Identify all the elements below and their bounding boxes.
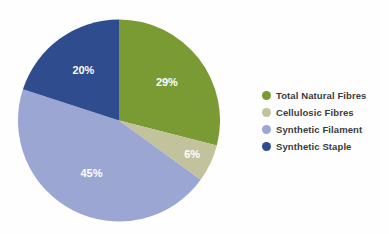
pie-slice-label: 20% — [72, 64, 94, 76]
circle-swatch-icon — [262, 91, 271, 100]
pie-chart-figure: 29%6%45%20% Total Natural FibresCellulos… — [0, 0, 389, 234]
circle-swatch-icon — [262, 125, 271, 134]
legend-item-label: Synthetic Filament — [276, 125, 362, 135]
legend-item-label: Total Natural Fibres — [276, 91, 367, 101]
pie-slice-label: 29% — [156, 76, 178, 88]
circle-swatch-icon — [262, 142, 271, 151]
legend-item[interactable]: Synthetic Filament — [262, 121, 388, 138]
legend-item-label: Cellulosic Fibres — [276, 108, 354, 118]
chart-legend: Total Natural FibresCellulosic FibresSyn… — [262, 87, 388, 155]
pie-slice-label: 45% — [80, 167, 102, 179]
legend-item[interactable]: Cellulosic Fibres — [262, 104, 388, 121]
legend-item[interactable]: Total Natural Fibres — [262, 87, 388, 104]
pie-slice-label: 6% — [184, 148, 200, 160]
pie-slice-group — [18, 19, 220, 221]
pie-chart-plot-area: 29%6%45%20% — [18, 19, 220, 222]
circle-swatch-icon — [262, 108, 271, 117]
pie-chart-svg: 29%6%45%20% — [18, 19, 220, 222]
legend-item-label: Synthetic Staple — [276, 142, 352, 152]
legend-item[interactable]: Synthetic Staple — [262, 138, 388, 155]
